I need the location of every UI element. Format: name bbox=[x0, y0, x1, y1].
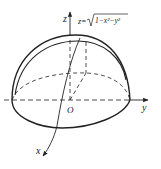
x-axis bbox=[43, 38, 80, 156]
equation-prefix: z= bbox=[77, 17, 87, 26]
surface-equation: z= 1−x²−y² bbox=[77, 14, 128, 26]
z-axis-label: z bbox=[62, 13, 67, 24]
hemisphere-inner-arc bbox=[15, 41, 126, 95]
hemisphere-diagram: z y x O z= 1−x²−y² bbox=[0, 0, 161, 169]
base-ellipse-back-dashed bbox=[12, 73, 130, 100]
y-axis-label: y bbox=[141, 102, 147, 113]
hemisphere-outline bbox=[12, 35, 130, 100]
dashed-radius bbox=[70, 73, 86, 100]
x-axis-label: x bbox=[35, 145, 41, 156]
origin-label: O bbox=[67, 105, 74, 115]
equation-radicand: 1−x²−y² bbox=[95, 16, 121, 25]
